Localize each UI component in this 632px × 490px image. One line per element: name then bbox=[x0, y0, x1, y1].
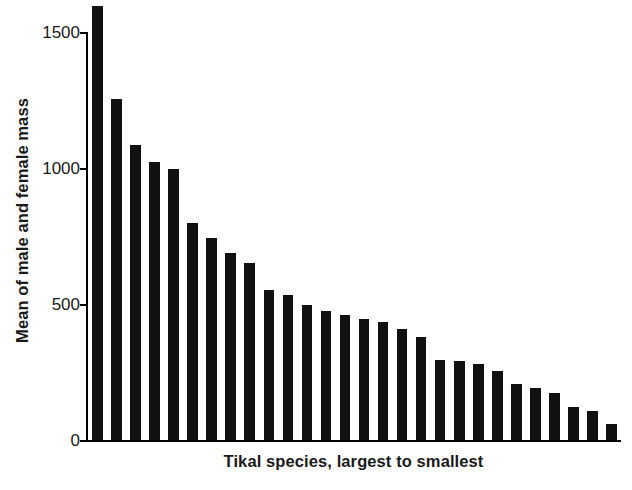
bar bbox=[340, 315, 351, 440]
bar bbox=[92, 6, 103, 441]
bar bbox=[149, 162, 160, 440]
y-tick-label-0: 0 bbox=[32, 432, 80, 449]
bar bbox=[530, 388, 541, 440]
bar bbox=[492, 371, 503, 440]
bar bbox=[454, 361, 465, 440]
bar bbox=[568, 407, 579, 440]
bar bbox=[244, 263, 255, 440]
y-tick-label-500: 500 bbox=[32, 296, 80, 313]
bar bbox=[587, 411, 598, 440]
y-tick-label-1000: 1000 bbox=[32, 160, 80, 177]
y-axis-title-text: Mean of male and female mass bbox=[13, 98, 32, 343]
bar bbox=[511, 384, 522, 440]
bar bbox=[302, 305, 313, 440]
bar bbox=[359, 319, 370, 440]
bar bbox=[187, 223, 198, 440]
x-axis-line bbox=[86, 440, 621, 442]
bar bbox=[130, 145, 141, 440]
bar bbox=[225, 253, 236, 440]
bar bbox=[416, 337, 427, 440]
y-tick-label-1500: 1500 bbox=[32, 24, 80, 41]
bar bbox=[264, 290, 275, 440]
bar bbox=[435, 360, 446, 440]
bar bbox=[111, 99, 122, 440]
bar bbox=[549, 393, 560, 440]
y-axis-tick-labels: 1500 1000 500 0 bbox=[30, 0, 80, 490]
x-axis-title: Tikal species, largest to smallest bbox=[86, 452, 621, 471]
bar bbox=[606, 424, 617, 441]
plot-area bbox=[88, 0, 621, 440]
bar bbox=[283, 295, 294, 440]
bar-chart-figure: Mean of male and female mass 1500 1000 5… bbox=[0, 0, 632, 490]
bar bbox=[397, 329, 408, 440]
bar bbox=[378, 322, 389, 440]
bar bbox=[168, 169, 179, 440]
bar bbox=[473, 364, 484, 440]
bar bbox=[321, 311, 332, 440]
bar bbox=[206, 238, 217, 440]
